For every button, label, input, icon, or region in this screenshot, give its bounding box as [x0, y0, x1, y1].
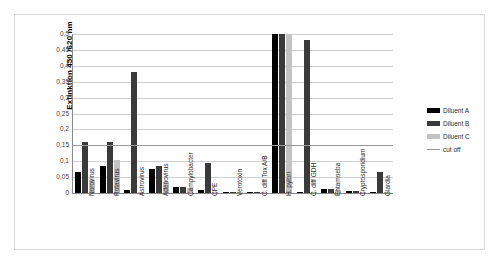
legend-swatch-icon [427, 134, 440, 139]
bar-series-container [73, 34, 393, 193]
x-axis-category-label: C. diff GDH [310, 163, 317, 196]
legend-item[interactable]: cut off [427, 144, 483, 155]
x-axis-category-label: Astrovirus [138, 167, 145, 196]
x-axis-line [73, 193, 393, 194]
bar [149, 169, 155, 193]
legend-item[interactable]: Diluent B [427, 118, 483, 129]
legend-item[interactable]: Diluent C [427, 131, 483, 142]
bar [272, 34, 278, 193]
bar [377, 172, 383, 193]
chart-legend: Diluent ADiluent BDiluent Ccut off [427, 105, 483, 157]
legend-item-label: Diluent B [443, 120, 469, 127]
legend-item-label: cut off [443, 146, 461, 153]
x-axis-category-label: Campylobacter [187, 152, 194, 196]
bar [124, 190, 130, 193]
legend-item[interactable]: Diluent A [427, 105, 483, 116]
x-axis-category-label: Norovirus [88, 168, 95, 196]
legend-swatch-icon [427, 121, 440, 126]
y-axis-tick-label: 0,35 [39, 79, 69, 86]
bar [180, 187, 186, 193]
x-axis-category-label: Verotoxin [236, 169, 243, 196]
legend-swatch-icon [427, 108, 440, 113]
y-axis-tick-label: 0,3 [39, 95, 69, 102]
bar [297, 192, 303, 193]
bar [100, 166, 106, 193]
bar [230, 192, 236, 193]
bar [223, 192, 229, 193]
y-axis-tick-label: 0,4 [39, 63, 69, 70]
bar [107, 142, 113, 193]
bar [370, 192, 376, 193]
x-axis-category-label: Giardia [384, 175, 391, 196]
bar [254, 192, 260, 193]
x-axis-category-label: Rotavirus [113, 169, 120, 196]
y-axis-tick-labels: 0,50,450,40,350,30,250,20,150,10,050 [35, 34, 69, 194]
x-axis-category-label: H. pylori [285, 172, 292, 196]
bar [173, 187, 179, 193]
x-axis-category-label: Adenovirus [162, 163, 169, 196]
x-axis-category-labels: NorovirusRotavirusAstrovirusAdenovirusCa… [73, 196, 393, 248]
bar [156, 166, 162, 193]
chart-figure: Extinktion 450 /620 nm 0,50,450,40,350,3… [14, 14, 485, 250]
y-axis-tick-label: 0,05 [39, 174, 69, 181]
bar [279, 34, 285, 193]
bar [321, 189, 327, 193]
bar [131, 72, 137, 193]
x-axis-category-label: Cryptosporidium [359, 149, 366, 196]
bar-group [368, 34, 393, 193]
y-axis-tick-label: 0,1 [39, 158, 69, 165]
y-axis-tick-label: 0,5 [39, 31, 69, 38]
y-axis-tick-label: 0,15 [39, 142, 69, 149]
legend-item-label: Diluent C [443, 133, 470, 140]
bar-group [270, 34, 295, 193]
x-axis-category-label: Entamoeba [334, 163, 341, 196]
bar [75, 172, 81, 193]
y-axis-tick-label: 0,45 [39, 47, 69, 54]
x-axis-category-label: CPE [211, 183, 218, 196]
bar [346, 191, 352, 193]
bar-group [196, 34, 221, 193]
bar [198, 190, 204, 193]
x-axis-category-label: C. diff Tox A/B [261, 155, 268, 196]
cut-off-line [73, 145, 393, 146]
bar [353, 191, 359, 193]
plot-area [73, 34, 393, 193]
bar [286, 34, 292, 193]
y-axis-tick-label: 0,2 [39, 126, 69, 133]
y-axis-tick-label: 0,25 [39, 111, 69, 118]
legend-item-label: Diluent A [443, 107, 469, 114]
y-axis-tick-label: 0 [39, 190, 69, 197]
legend-swatch-icon [427, 149, 440, 150]
bar [247, 192, 253, 193]
bar [304, 40, 310, 193]
